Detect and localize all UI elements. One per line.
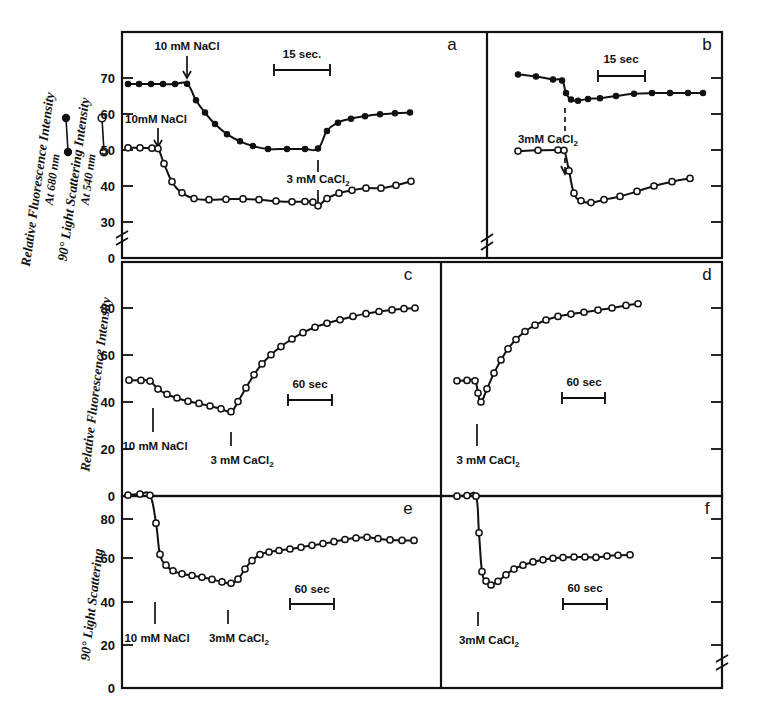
annotation-label: 3 mM CaCl2 <box>456 454 520 469</box>
annotation-cacl2-text: 3mM CaCl <box>459 634 515 646</box>
ytick-e-80: 80 <box>101 512 115 527</box>
open-circle-marker <box>511 566 517 572</box>
filled-circle-marker <box>160 81 165 86</box>
open-circle-marker <box>174 395 180 401</box>
open-circle-marker <box>387 537 393 543</box>
ytick-c-20: 20 <box>101 442 115 457</box>
open-circle-marker <box>454 493 460 499</box>
scalebar-e: 60 sec <box>290 583 334 610</box>
open-circle-marker <box>137 491 143 497</box>
data-curve <box>518 148 690 202</box>
filled-circle-marker <box>237 139 242 144</box>
open-circle-marker <box>191 196 197 202</box>
filled-circle-marker <box>315 146 320 151</box>
annotation-c-nacl: 10 mM NaCl <box>122 408 187 452</box>
filled-circle-marker <box>184 81 189 86</box>
open-circle-marker <box>399 537 405 543</box>
scalebar-c: 60 sec <box>288 378 332 406</box>
annotation-label: 10 mM NaCl <box>154 40 219 52</box>
annotation-cacl2-subscript: 2 <box>265 638 270 647</box>
open-circle-marker <box>235 398 241 404</box>
open-circle-marker <box>228 580 234 586</box>
open-circle-marker <box>278 343 284 349</box>
annotation-cacl2-text: 3mM CaCl <box>209 632 265 644</box>
open-circle-marker <box>582 554 588 560</box>
filled-circle-marker <box>302 146 307 151</box>
open-circle-marker <box>588 199 594 205</box>
filled-circle-marker <box>362 113 367 118</box>
open-circle-marker <box>535 147 541 153</box>
filled-circle-marker <box>348 116 353 121</box>
open-circle-marker <box>540 557 546 563</box>
open-circle-marker <box>617 193 623 199</box>
open-circle-marker <box>472 378 478 384</box>
open-circle-marker <box>196 400 202 406</box>
ytick-e-40: 40 <box>101 595 115 610</box>
panel-row-top: 70 60 50 40 30 0 a b 10 mM NaCl <box>101 32 722 266</box>
open-circle-marker <box>164 391 170 397</box>
legend-filled-circle-marker <box>62 114 71 155</box>
open-circle-marker <box>228 409 234 415</box>
panel-f-yaxis-ticks <box>711 519 722 645</box>
panel-letter-e: e <box>403 499 412 518</box>
panel-letter-a: a <box>447 35 457 54</box>
panel-ab-frame <box>122 32 722 258</box>
open-circle-marker <box>550 555 556 561</box>
open-circle-marker <box>503 572 509 578</box>
open-circle-marker <box>207 403 213 409</box>
annotation-cacl2-text: 3 mM CaCl <box>210 454 269 466</box>
axis-title-group-top: Relative Fluorescence Intensity At 680 n… <box>18 90 108 268</box>
scalebar-f: 60 sec <box>563 582 607 610</box>
open-circle-marker <box>219 579 225 585</box>
filled-circle-marker <box>550 77 555 82</box>
panel-letter-f: f <box>705 499 710 518</box>
open-circle-marker <box>376 308 382 314</box>
filled-circle-marker <box>700 90 705 95</box>
data-curve <box>129 308 415 412</box>
open-circle-marker <box>349 187 355 193</box>
annotation-cacl2-text: 3 mM CaCl <box>456 454 515 466</box>
open-circle-marker <box>389 307 395 313</box>
open-circle-marker <box>240 196 246 202</box>
filled-circle-marker <box>597 95 602 100</box>
filled-circle-marker <box>265 146 270 151</box>
open-circle-marker <box>560 555 566 561</box>
open-circle-marker <box>478 399 484 405</box>
open-circle-marker <box>473 493 479 499</box>
scalebar-label: 15 sec. <box>283 48 321 60</box>
filled-circle-marker <box>136 81 141 86</box>
panel-letter-d: d <box>702 265 711 284</box>
filled-circle-marker <box>377 112 382 117</box>
plot-panel-f <box>454 492 633 588</box>
open-circle-marker <box>331 539 337 545</box>
open-circle-marker <box>350 313 356 319</box>
open-circle-marker <box>475 390 481 396</box>
open-circle-marker <box>257 552 263 558</box>
scalebar-label: 15 sec <box>603 53 639 65</box>
annotation-a-nacl-fluorescence: 10 mM NaCl <box>154 40 219 78</box>
filled-circle-marker <box>559 78 564 83</box>
filled-circle-marker <box>392 111 397 116</box>
filled-circle-marker <box>667 90 672 95</box>
filled-circle-marker <box>284 146 289 151</box>
annotation-cacl2-subscript: 2 <box>515 460 520 469</box>
filled-circle-marker <box>585 96 590 101</box>
filled-circle-marker <box>125 81 130 86</box>
open-circle-marker <box>401 306 407 312</box>
annotation-label: 3 mM CaCl2 <box>286 173 350 188</box>
plot-panel-d <box>454 301 641 405</box>
open-circle-marker <box>555 313 561 319</box>
scalebar-a: 15 sec. <box>274 48 330 76</box>
open-circle-marker <box>484 386 490 392</box>
ytick-c-80: 80 <box>101 301 115 316</box>
open-circle-marker <box>609 305 615 311</box>
annotation-cacl2-subscript: 2 <box>345 179 350 188</box>
ytick-c-0: 0 <box>108 489 115 504</box>
annotation-a-nacl-scattering: 10mM NaCl <box>125 113 187 147</box>
open-circle-marker <box>363 311 369 317</box>
filled-circle-marker <box>515 72 520 77</box>
filled-circle-marker <box>148 81 153 86</box>
open-circle-marker <box>634 188 640 194</box>
data-curve <box>128 147 411 206</box>
open-circle-marker <box>185 398 191 404</box>
